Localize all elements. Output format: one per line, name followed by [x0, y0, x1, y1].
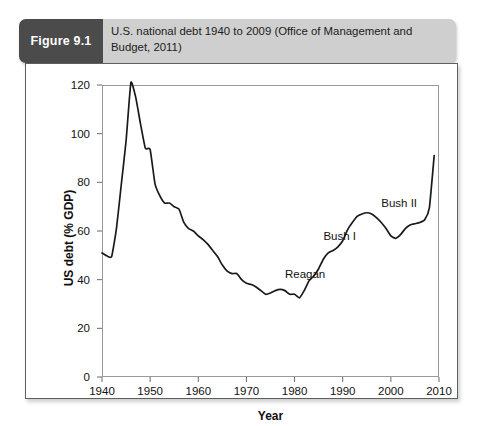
x-tick-1960: 1960: [175, 385, 221, 397]
x-tick-2000: 2000: [368, 385, 414, 397]
x-tick-1990: 1990: [320, 385, 366, 397]
plot-area: 020406080100120 194019501960197019801990…: [26, 64, 457, 398]
figure-number-badge: Figure 9.1: [19, 19, 103, 63]
x-tick-1970: 1970: [223, 385, 269, 397]
annotation-bush-i: Bush I: [323, 230, 356, 242]
figure-header: Figure 9.1 U.S. national debt 1940 to 20…: [19, 19, 456, 63]
x-tick-1950: 1950: [127, 385, 173, 397]
x-axis-title: Year: [102, 409, 439, 423]
x-tick-1940: 1940: [79, 385, 125, 397]
x-tick-2010: 2010: [416, 385, 462, 397]
y-axis-title: US debt (% GDP): [62, 148, 76, 328]
annotation-reagan: Reagan: [285, 268, 325, 280]
y-tick-0: 0: [50, 371, 90, 383]
debt-line-chart: [26, 64, 457, 398]
axis-ticks: [97, 85, 439, 382]
figure-card: 020406080100120 194019501960197019801990…: [25, 63, 458, 399]
figure-caption: U.S. national debt 1940 to 2009 (Office …: [111, 24, 449, 55]
figure-page: Figure 9.1 U.S. national debt 1940 to 20…: [0, 0, 479, 426]
x-tick-1980: 1980: [272, 385, 318, 397]
y-tick-120: 120: [50, 79, 90, 91]
debt-series-line: [102, 82, 434, 298]
y-tick-100: 100: [50, 128, 90, 140]
annotation-bush-ii: Bush II: [381, 197, 417, 209]
